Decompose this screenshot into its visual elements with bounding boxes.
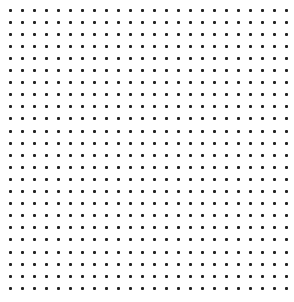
grid-dot — [33, 130, 36, 133]
grid-dot — [213, 251, 216, 254]
grid-dot — [93, 117, 96, 120]
grid-dot — [153, 33, 156, 36]
grid-dot — [189, 251, 192, 254]
grid-dot — [213, 190, 216, 193]
grid-dot — [237, 130, 240, 133]
grid-dot — [201, 93, 204, 96]
grid-dot — [81, 263, 84, 266]
grid-dot — [117, 287, 120, 290]
grid-dot — [21, 178, 24, 181]
grid-dot — [33, 45, 36, 48]
grid-dot — [201, 214, 204, 217]
grid-dot — [81, 287, 84, 290]
grid-dot — [93, 93, 96, 96]
grid-dot — [153, 275, 156, 278]
grid-dot — [129, 81, 132, 84]
grid-dot — [285, 238, 288, 241]
grid-dot — [117, 81, 120, 84]
grid-dot — [177, 57, 180, 60]
grid-dot — [141, 33, 144, 36]
grid-dot — [117, 202, 120, 205]
grid-dot — [249, 33, 252, 36]
grid-dot — [33, 226, 36, 229]
grid-dot — [261, 154, 264, 157]
grid-dot — [21, 9, 24, 12]
grid-dot — [165, 21, 168, 24]
grid-dot — [21, 117, 24, 120]
grid-dot — [249, 226, 252, 229]
grid-dot — [165, 9, 168, 12]
grid-dot — [9, 130, 12, 133]
grid-dot — [57, 166, 60, 169]
grid-dot — [165, 178, 168, 181]
grid-dot — [117, 33, 120, 36]
grid-dot — [105, 238, 108, 241]
grid-dot — [165, 33, 168, 36]
grid-dot — [81, 251, 84, 254]
grid-dot — [273, 275, 276, 278]
grid-dot — [189, 21, 192, 24]
grid-dot — [33, 166, 36, 169]
grid-dot — [141, 93, 144, 96]
grid-dot — [189, 154, 192, 157]
grid-dot — [225, 154, 228, 157]
grid-dot — [261, 142, 264, 145]
grid-dot — [285, 130, 288, 133]
grid-dot — [21, 238, 24, 241]
grid-dot — [249, 287, 252, 290]
grid-dot — [237, 93, 240, 96]
grid-dot — [93, 33, 96, 36]
grid-dot — [9, 178, 12, 181]
grid-dot — [177, 166, 180, 169]
grid-dot — [81, 69, 84, 72]
grid-dot — [105, 226, 108, 229]
grid-dot — [117, 57, 120, 60]
grid-dot — [153, 251, 156, 254]
grid-dot — [9, 45, 12, 48]
grid-dot — [81, 226, 84, 229]
grid-dot — [189, 178, 192, 181]
grid-dot — [213, 21, 216, 24]
grid-dot — [141, 263, 144, 266]
grid-dot — [69, 33, 72, 36]
grid-dot — [57, 251, 60, 254]
grid-dot — [177, 69, 180, 72]
grid-dot — [93, 45, 96, 48]
grid-dot — [177, 21, 180, 24]
grid-dot — [285, 166, 288, 169]
grid-dot — [237, 105, 240, 108]
grid-dot — [213, 287, 216, 290]
grid-dot — [9, 57, 12, 60]
grid-dot — [69, 263, 72, 266]
grid-dot — [69, 45, 72, 48]
grid-dot — [21, 214, 24, 217]
grid-dot — [81, 166, 84, 169]
grid-dot — [213, 142, 216, 145]
grid-dot — [21, 202, 24, 205]
grid-dot — [57, 178, 60, 181]
grid-dot — [21, 130, 24, 133]
grid-dot — [21, 81, 24, 84]
grid-dot — [285, 69, 288, 72]
grid-dot — [165, 166, 168, 169]
grid-dot — [285, 226, 288, 229]
grid-dot — [141, 287, 144, 290]
grid-dot — [117, 105, 120, 108]
grid-dot — [201, 130, 204, 133]
grid-dot — [117, 166, 120, 169]
grid-dot — [33, 142, 36, 145]
grid-dot — [153, 9, 156, 12]
grid-dot — [189, 33, 192, 36]
grid-dot — [69, 117, 72, 120]
grid-dot — [201, 178, 204, 181]
grid-dot — [129, 117, 132, 120]
grid-dot — [117, 142, 120, 145]
grid-dot — [153, 130, 156, 133]
grid-dot — [33, 190, 36, 193]
grid-dot — [201, 105, 204, 108]
grid-dot — [45, 178, 48, 181]
grid-dot — [285, 178, 288, 181]
grid-dot — [9, 238, 12, 241]
grid-dot — [33, 9, 36, 12]
grid-dot — [273, 287, 276, 290]
